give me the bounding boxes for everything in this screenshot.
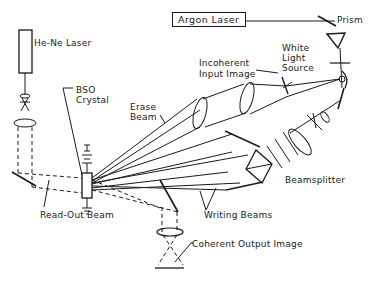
output-lens [157,228,183,236]
bso-label-1: BSO [76,85,95,95]
upper-mirror [225,131,260,147]
erase-beam-label-1: Erase [130,102,156,112]
lens [319,110,331,123]
bso-label-2: Crystal [76,95,109,105]
erase-beam-label-2: Beam [130,112,157,122]
coherent-output-label: Coherent Output Image [192,239,303,249]
writing-beams-label: Writing Beams [204,210,272,220]
input-lens-1 [237,81,257,115]
right-mirror [338,88,344,109]
incoherent-input-label-1: Incoherent [199,58,249,68]
white-light-label-3: Source [282,63,314,73]
he-ne-lens [14,119,36,127]
argon-laser-label: Argon Laser [172,12,246,27]
output-mirror [160,180,178,212]
incoherent-input-label-2: Input Image [199,69,256,79]
read-out-beam-label: Read-Out Beam [40,210,114,220]
prism-label: Prism [337,15,363,25]
he-ne-laser-body [19,30,32,73]
prism-icon [327,33,345,48]
bso-crystal [82,173,92,198]
he-ne-laser-label: He-Ne Laser [34,38,91,48]
beamsplitter-label: Beamsplitter [285,175,345,185]
white-light-label-1: White [282,43,309,53]
input-lens-2 [190,96,210,130]
optical-diagram: Argon Laser Prism He-Ne Laser White Ligh… [0,0,372,281]
white-light-label-2: Light [282,53,305,63]
